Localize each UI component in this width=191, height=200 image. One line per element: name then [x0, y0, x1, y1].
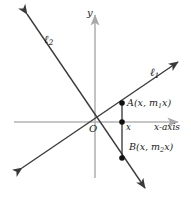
point-b-label: B(x, m2x)	[129, 142, 173, 153]
line-l1-label: ℓ1	[150, 67, 159, 80]
line-l1-label-subscript: 1	[155, 71, 160, 80]
line-l2-label: ℓ2	[44, 34, 54, 47]
origin-label: O	[89, 124, 97, 134]
point-b-coords-post: x)	[164, 141, 173, 152]
x-axis-label: x-axis	[154, 123, 180, 132]
point-b-dot	[119, 155, 125, 161]
y-axis-label: y	[87, 8, 93, 18]
point-a-coords-post: x)	[162, 97, 171, 108]
point-b-name: B	[129, 141, 136, 152]
point-x-foot-dot	[119, 119, 125, 125]
line-l2-label-subscript: 2	[49, 38, 54, 47]
point-b-coords-pre: (x, m	[136, 141, 160, 152]
point-a-name: A	[127, 97, 134, 108]
point-a-coords-pre: (x, m	[134, 97, 158, 108]
point-a-dot	[119, 100, 125, 106]
point-a-label: A(x, m1x)	[127, 98, 171, 109]
geometry-figure: ℓ2 ℓ1 y x-axis O x A(x, m1x) B(x, m2x)	[0, 0, 191, 200]
x-foot-label: x	[126, 123, 131, 132]
